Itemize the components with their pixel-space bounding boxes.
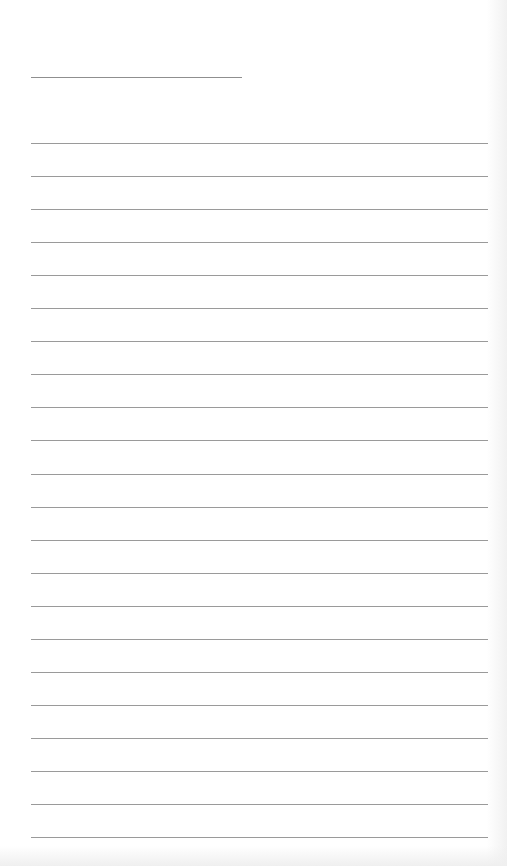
- title-underline: [31, 77, 242, 78]
- writing-line: [31, 275, 488, 276]
- writing-line: [31, 705, 488, 706]
- writing-line: [31, 573, 488, 574]
- writing-line: [31, 374, 488, 375]
- writing-line: [31, 507, 488, 508]
- writing-line: [31, 341, 488, 342]
- writing-line: [31, 474, 488, 475]
- writing-line: [31, 540, 488, 541]
- writing-line: [31, 771, 488, 772]
- writing-line: [31, 837, 488, 838]
- writing-line: [31, 308, 488, 309]
- lined-paper-page: [0, 0, 507, 866]
- writing-line: [31, 242, 488, 243]
- writing-line: [31, 606, 488, 607]
- writing-line: [31, 639, 488, 640]
- writing-line: [31, 407, 488, 408]
- writing-line: [31, 176, 488, 177]
- writing-line: [31, 804, 488, 805]
- writing-line: [31, 738, 488, 739]
- writing-line: [31, 209, 488, 210]
- writing-line: [31, 440, 488, 441]
- writing-line: [31, 672, 488, 673]
- writing-line: [31, 143, 488, 144]
